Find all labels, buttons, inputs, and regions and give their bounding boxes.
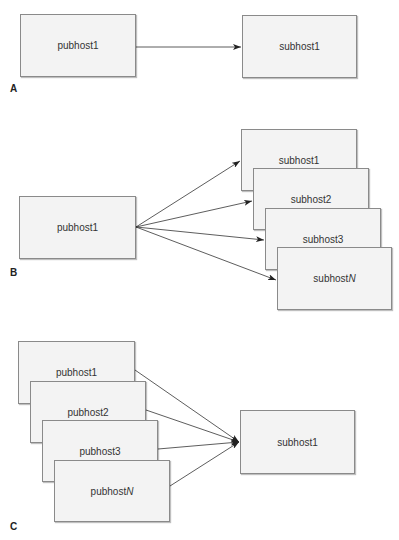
node-label: pubhost1 bbox=[57, 40, 98, 51]
node-label-suffix: N bbox=[348, 273, 355, 284]
node-label: subhostN bbox=[313, 273, 355, 284]
edge-b-pubhost1-subhost3 bbox=[136, 227, 264, 240]
node-c-subhost1: subhost1 bbox=[240, 410, 355, 474]
edge-b-pubhost1-subhostN bbox=[136, 227, 276, 280]
node-label: subhost1 bbox=[277, 437, 318, 448]
node-label: pubhost3 bbox=[79, 446, 120, 457]
panel-label-c: C bbox=[10, 521, 17, 532]
node-label: subhost1 bbox=[279, 41, 320, 52]
panel-label-b: B bbox=[10, 267, 17, 278]
node-label: pubhost1 bbox=[57, 222, 98, 233]
node-label: pubhostN bbox=[91, 486, 134, 497]
edge-c-pubhost3-subhost1 bbox=[158, 442, 239, 449]
node-b-pubhost1: pubhost1 bbox=[19, 196, 136, 259]
node-label: subhost1 bbox=[279, 155, 320, 166]
node-a-subhost1: subhost1 bbox=[242, 15, 357, 78]
node-label-prefix: pubhost bbox=[91, 486, 127, 497]
edge-c-pubhost2-subhost1 bbox=[146, 410, 239, 442]
node-c-pubhostN: pubhostN bbox=[54, 460, 170, 522]
edge-b-pubhost1-subhost2 bbox=[136, 201, 252, 227]
node-label: subhost2 bbox=[291, 194, 332, 205]
panel-label-a: A bbox=[10, 83, 17, 94]
node-label: pubhost2 bbox=[67, 407, 108, 418]
node-label-suffix: N bbox=[126, 486, 133, 497]
node-label: subhost3 bbox=[303, 234, 344, 245]
edge-b-pubhost1-subhost1 bbox=[136, 161, 240, 227]
node-label-prefix: subhost bbox=[313, 273, 348, 284]
node-b-subhostN: subhostN bbox=[277, 247, 392, 310]
node-label: pubhost1 bbox=[56, 367, 97, 378]
edge-c-pubhostN-subhost1 bbox=[170, 442, 239, 486]
node-a-pubhost1: pubhost1 bbox=[20, 14, 136, 77]
